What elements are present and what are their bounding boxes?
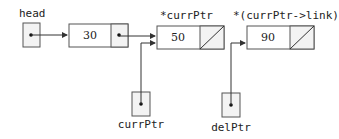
head-label: head [19,7,46,20]
linked-list-diagram: head 30 *currPtr 50 *(currPtr->link) 90 … [0,0,339,139]
node-30-value: 30 [83,29,97,42]
delptr-label: delPtr [211,121,251,134]
node-90-value: 90 [261,31,275,44]
node-50-value: 50 [171,31,185,44]
node-50: 50 [157,26,224,49]
currptr-label: currPtr [118,118,165,131]
next-node-label: *(currPtr->link) [233,9,339,22]
currptr-deref-label: *currPtr [160,9,213,22]
node-90: 90 [247,26,314,49]
